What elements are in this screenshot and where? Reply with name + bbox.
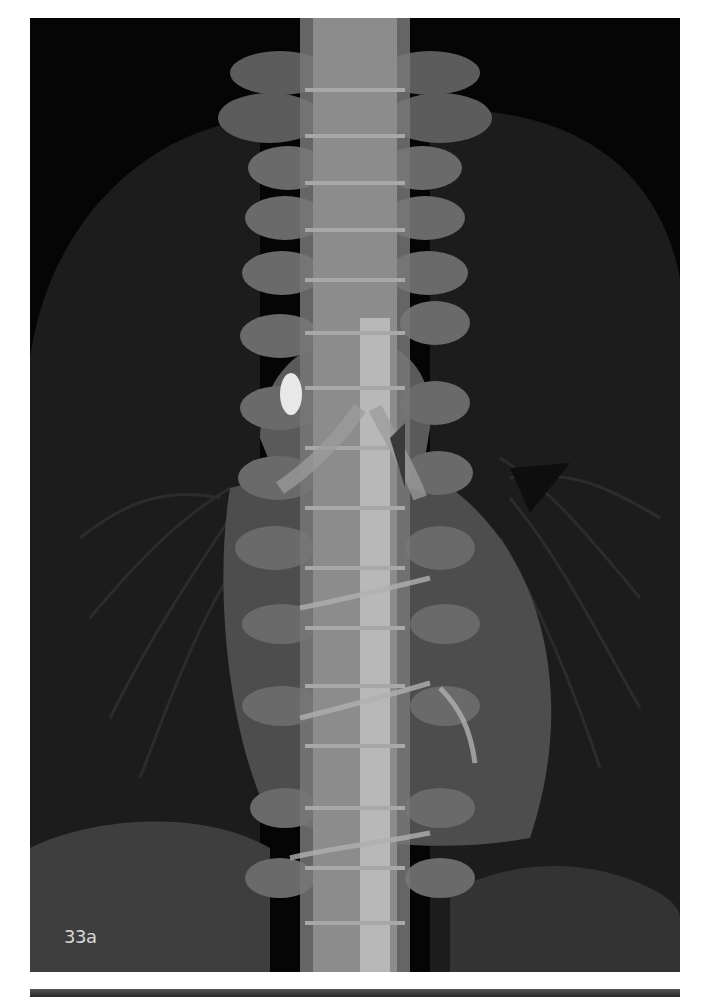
xray-illustration (30, 18, 680, 972)
figure-label: 33a (64, 926, 96, 947)
chest-xray-figure: 33a (30, 18, 680, 972)
next-figure-edge (30, 989, 680, 997)
